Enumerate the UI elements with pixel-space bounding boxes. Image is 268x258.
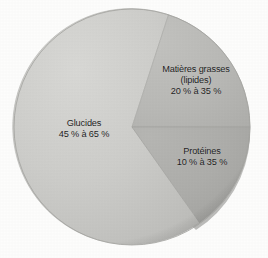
pie-label-matieres-grasses-name-line1: Matières grasses <box>144 64 248 75</box>
pie-label-matieres-grasses: Matières grasses (lipides) 20 % à 35 % <box>144 64 248 98</box>
pie-chart-figure: Matières grasses (lipides) 20 % à 35 % G… <box>0 0 268 258</box>
pie-label-matieres-grasses-value: 20 % à 35 % <box>144 86 248 97</box>
pie-label-matieres-grasses-name-line2: (lipides) <box>144 75 248 86</box>
pie-label-glucides-value: 45 % à 65 % <box>36 129 132 140</box>
pie-label-proteines-name: Protéines <box>152 146 252 157</box>
pie-label-glucides: Glucides 45 % à 65 % <box>36 118 132 140</box>
pie-label-proteines: Protéines 10 % à 35 % <box>152 146 252 168</box>
pie-label-proteines-value: 10 % à 35 % <box>152 157 252 168</box>
pie-label-glucides-name: Glucides <box>36 118 132 129</box>
